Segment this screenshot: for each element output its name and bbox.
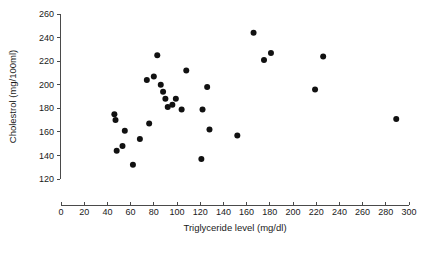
y-axis-tick-label: 140 (39, 151, 54, 161)
x-axis-tick-label: 20 (79, 207, 89, 217)
data-point (151, 73, 157, 79)
data-point (200, 106, 206, 112)
y-axis-tick-label: 120 (39, 174, 54, 184)
data-point (268, 50, 274, 56)
y-axis-title: Cholestrol (mg/100ml) (7, 50, 18, 143)
x-axis-tick-label: 160 (239, 207, 254, 217)
x-axis-tick-label: 100 (169, 207, 184, 217)
data-point (122, 128, 128, 134)
x-axis-tick-label: 0 (58, 207, 63, 217)
data-point (393, 116, 399, 122)
chart-canvas: 120140160180200220240260Cholestrol (mg/1… (0, 0, 437, 254)
x-axis-tick-label: 200 (285, 207, 300, 217)
data-point (146, 121, 152, 127)
data-point (179, 106, 185, 112)
data-point (160, 89, 166, 95)
y-axis-tick-label: 180 (39, 103, 54, 113)
x-axis-tick-label: 140 (216, 207, 231, 217)
x-axis-tick-label: 240 (332, 207, 347, 217)
data-point (234, 132, 240, 138)
data-point (119, 143, 125, 149)
y-axis-tick-label: 240 (39, 33, 54, 43)
x-axis-tick-label: 280 (378, 207, 393, 217)
data-point (114, 148, 120, 154)
data-point (206, 127, 212, 133)
data-point (204, 84, 210, 90)
x-axis-tick-label: 120 (193, 207, 208, 217)
data-point (137, 136, 143, 142)
x-axis-tick-label: 220 (309, 207, 324, 217)
y-axis-tick-label: 220 (39, 56, 54, 66)
data-point (312, 86, 318, 92)
y-axis-tick-label: 160 (39, 127, 54, 137)
data-point (198, 156, 204, 162)
data-point (154, 52, 160, 58)
x-axis-tick-label: 60 (126, 207, 136, 217)
scatter-plot-figure: 120140160180200220240260Cholestrol (mg/1… (0, 0, 437, 254)
x-axis-tick-label: 180 (262, 207, 277, 217)
data-point (111, 111, 117, 117)
data-point (169, 102, 175, 108)
data-point (158, 82, 164, 88)
x-axis-tick-label: 80 (149, 207, 159, 217)
data-point (183, 68, 189, 74)
data-point (320, 53, 326, 59)
data-point (113, 117, 119, 123)
x-axis-tick-label: 300 (401, 207, 416, 217)
x-axis-tick-label: 40 (102, 207, 112, 217)
data-point (251, 30, 257, 36)
data-point (261, 57, 267, 63)
data-point (144, 77, 150, 83)
data-point (162, 96, 168, 102)
y-axis-tick-label: 200 (39, 80, 54, 90)
data-point (130, 162, 136, 168)
data-point (173, 96, 179, 102)
x-axis-tick-label: 260 (355, 207, 370, 217)
x-axis-title: Triglyceride level (mg/dl) (183, 222, 286, 233)
y-axis-tick-label: 260 (39, 9, 54, 19)
